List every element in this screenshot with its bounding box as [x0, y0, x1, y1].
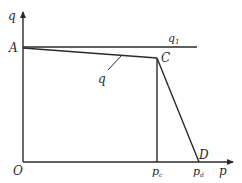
q1-label-main: q [168, 32, 175, 45]
q1-label-sub: 1 [175, 38, 179, 46]
x-axis-label: p [219, 164, 227, 178]
point-d-label: D [198, 148, 209, 162]
x-tick-pc: pc [152, 165, 163, 178]
x-tick-pc-main: p [152, 165, 159, 178]
point-a-label: A [8, 41, 18, 55]
x-tick-pd-main: p [193, 165, 200, 178]
x-tick-pc-sub: c [159, 171, 163, 178]
x-tick-pd: pd [193, 165, 204, 178]
point-c-label: C [161, 51, 170, 65]
x-tick-pd-sub: d [200, 171, 204, 178]
q1-label: q1 [168, 32, 180, 46]
diagram-canvas: q A q1 C q O D pc pd p [0, 0, 242, 183]
q-line-a-to-c [23, 48, 157, 58]
origin-label: O [13, 164, 23, 178]
q-leader-line [108, 56, 121, 70]
q-label: q [98, 72, 106, 86]
q-line-c-to-d [157, 58, 199, 162]
y-axis-label: q [8, 9, 16, 23]
